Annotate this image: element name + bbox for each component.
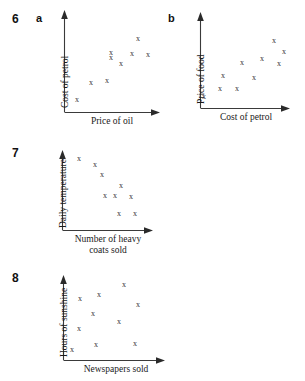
data-point: x [119,60,123,68]
y-axis-arrowhead [197,12,204,21]
data-point: x [221,72,225,80]
data-point: x [146,51,150,59]
data-point: x [103,192,107,200]
question-number-6: 6 [12,12,19,26]
x-axis-label-8: Newspapers sold [62,364,170,375]
data-point: x [260,55,264,63]
x-axis-label-7: Number of heavy coats sold [54,234,162,256]
data-point: x [75,96,79,104]
scatter-chart-7: x x x x x x x x x Daily temperature Numb… [48,146,168,264]
data-point: x [119,182,123,190]
data-point: x [70,346,74,354]
data-point: x [136,301,140,309]
exercise-page: 6 7 8 a b x x x x x x x x x Cost of petr… [0,0,305,381]
y-axis-arrowhead [61,10,68,19]
data-point: x [277,60,281,68]
x-axis-label-6a: Price of oil [64,116,160,127]
data-point: x [117,210,121,218]
x-axis-arrowhead [144,227,153,234]
data-point: x [94,341,98,349]
data-point: x [78,295,82,303]
data-point: x [133,210,137,218]
data-point: x [272,37,276,45]
y-axis-arrowhead [59,150,66,159]
y-axis-label-7: Daily temperature [58,159,68,228]
data-point: x [113,192,117,200]
data-point: x [129,193,133,201]
y-axis-label-6b: Price of food [196,54,206,104]
scatter-chart-6a: x x x x x x x x x Cost of petrol Price o… [50,8,170,130]
data-point: x [97,291,101,299]
data-point: x [77,155,81,163]
y-axis-arrowhead [60,275,67,284]
data-point: x [252,74,256,82]
data-point: x [109,54,113,62]
data-point: x [91,310,95,318]
scatter-chart-6b: x x x x x x x x x x Price of food Cost o… [186,8,301,130]
y-axis-label-6a: Cost of petrol [60,56,70,108]
data-point: x [130,50,134,58]
data-point: x [240,59,244,67]
data-point: x [117,318,121,326]
data-point: x [218,85,222,93]
question-number-7: 7 [12,146,19,160]
x-axis-arrowhead [281,105,290,112]
x-axis-arrowhead [156,357,165,364]
data-point: x [93,161,97,169]
data-point: x [235,85,239,93]
data-point: x [133,340,137,348]
data-point: x [105,77,109,85]
question-number-8: 8 [12,271,19,285]
x-axis-arrowhead [151,109,160,116]
data-point: x [77,325,81,333]
data-point: x [100,171,104,179]
sublabel-a: a [36,12,42,24]
scatter-chart-8: x x x x x x x x x x Hours of sunshine Ne… [48,271,178,381]
data-point: x [89,79,93,87]
y-axis-label-8: Hours of sunshine [59,288,69,357]
data-point: x [282,48,286,56]
x-axis-label-6b: Cost of petrol [198,112,294,123]
data-point: x [136,35,140,43]
data-point: x [122,281,126,289]
